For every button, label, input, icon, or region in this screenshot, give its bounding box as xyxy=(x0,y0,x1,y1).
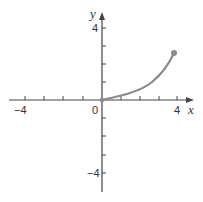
end-point xyxy=(171,50,177,56)
y-tick-label-pos4: 4 xyxy=(92,22,98,34)
coordinate-plane: −4 0 4 4 −4 x y xyxy=(0,0,203,202)
x-tick-label-zero: 0 xyxy=(92,104,98,116)
x-tick-label-neg4: −4 xyxy=(14,104,27,116)
x-tick-label-pos4: 4 xyxy=(174,104,180,116)
start-point xyxy=(100,98,105,103)
x-axis-label: x xyxy=(187,102,194,117)
y-axis-label: y xyxy=(88,6,96,21)
y-tick-label-neg4: −4 xyxy=(87,167,100,179)
function-curve xyxy=(102,53,174,100)
y-axis-arrow-icon xyxy=(99,12,105,20)
